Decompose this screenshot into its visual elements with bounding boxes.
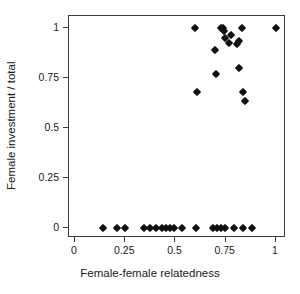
x-axis-tick-label: 0: [71, 245, 77, 256]
x-axis-label: Female-female relatedness: [0, 268, 300, 280]
y-axis-label: Female investment / total: [6, 62, 18, 190]
data-point: [177, 224, 185, 232]
x-axis-tick: [74, 237, 75, 242]
data-point: [210, 46, 218, 54]
x-axis-tick: [275, 237, 276, 242]
data-point: [192, 88, 200, 96]
data-point: [239, 224, 247, 232]
x-axis-tick: [174, 237, 175, 242]
data-point: [224, 39, 232, 47]
data-point: [190, 24, 198, 32]
data-points-layer: [69, 16, 284, 236]
scatter-plot-figure: Female investment / total 00.250.50.751 …: [0, 0, 300, 294]
data-point: [230, 224, 238, 232]
data-point: [238, 24, 246, 32]
y-axis-tick-label: 1: [53, 22, 59, 33]
data-point: [272, 24, 280, 32]
x-axis-tick-label: 1: [272, 245, 278, 256]
data-point: [248, 224, 256, 232]
plot-area: [68, 15, 285, 237]
data-point: [239, 88, 247, 96]
x-axis-tick: [124, 237, 125, 242]
x-axis-tick-label: 0.75: [215, 245, 235, 256]
x-axis-tick: [225, 237, 226, 242]
data-point: [211, 70, 219, 78]
data-point: [191, 224, 199, 232]
data-point: [235, 64, 243, 72]
y-axis-label-container: Female investment / total: [2, 0, 22, 252]
data-point: [121, 224, 129, 232]
y-axis-tick-label: 0.5: [44, 122, 59, 133]
x-axis-tick-label: 0.25: [114, 245, 134, 256]
y-axis-tick-label: 0.25: [39, 172, 59, 183]
data-point: [241, 97, 249, 105]
y-axis-tick-label: 0.75: [39, 72, 59, 83]
y-axis-tick-label: 0: [53, 222, 59, 233]
x-axis-tick-label: 0.5: [167, 245, 182, 256]
data-point: [99, 224, 107, 232]
